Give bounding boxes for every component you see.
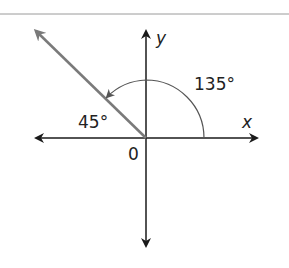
angle-45-label: 45° bbox=[78, 114, 108, 131]
angle-135-label: 135° bbox=[194, 76, 235, 93]
angle-arc bbox=[107, 80, 204, 138]
angle-diagram bbox=[0, 0, 289, 268]
x-axis-label: x bbox=[242, 114, 252, 131]
origin-label: 0 bbox=[128, 146, 139, 163]
y-axis-label: y bbox=[156, 30, 166, 47]
